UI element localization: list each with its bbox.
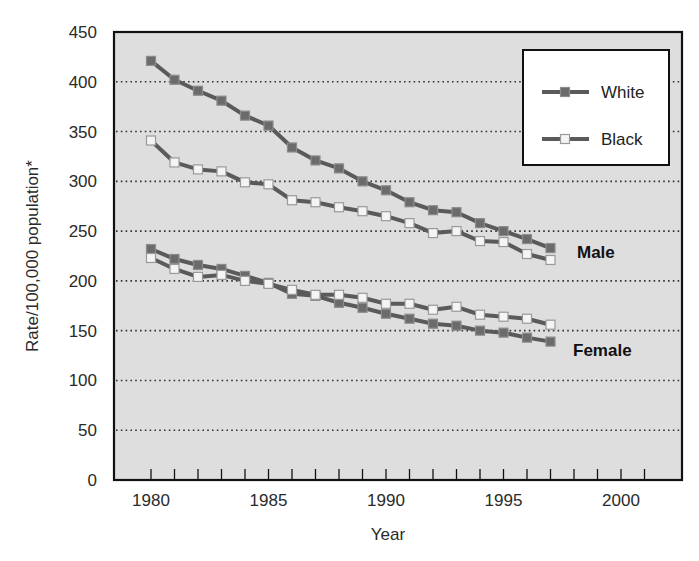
open-square-marker-icon	[499, 312, 508, 321]
legend-box	[523, 50, 669, 165]
y-tick-label: 0	[88, 471, 97, 490]
filled-square-marker-icon	[170, 254, 179, 263]
open-square-marker-icon	[405, 299, 414, 308]
filled-square-marker-icon	[452, 321, 461, 330]
open-square-marker-icon	[241, 178, 250, 187]
filled-square-marker-icon	[358, 303, 367, 312]
open-square-marker-icon	[499, 238, 508, 247]
open-square-marker-icon	[217, 167, 226, 176]
open-square-marker-icon	[382, 299, 391, 308]
y-tick-label: 450	[69, 23, 97, 42]
y-tick-label: 400	[69, 73, 97, 92]
open-square-marker-icon	[170, 158, 179, 167]
open-square-marker-icon	[358, 207, 367, 216]
filled-square-marker-icon	[311, 156, 320, 165]
open-square-marker-icon	[288, 196, 297, 205]
y-tick-label: 50	[78, 421, 97, 440]
filled-square-marker-icon	[429, 319, 438, 328]
open-square-marker-icon	[217, 270, 226, 279]
filled-square-marker-icon	[405, 198, 414, 207]
filled-square-marker-icon	[147, 56, 156, 65]
filled-square-marker-icon	[382, 186, 391, 195]
y-tick-label: 350	[69, 123, 97, 142]
y-axis-tick-labels: 050100150200250300350400450	[69, 23, 97, 490]
y-axis-title: Rate/100,000 population*	[23, 160, 42, 352]
open-square-marker-icon	[147, 253, 156, 262]
filled-square-marker-icon	[405, 314, 414, 323]
filled-square-marker-icon	[147, 245, 156, 254]
filled-square-marker-icon	[546, 337, 555, 346]
x-tick-label: 2000	[602, 491, 640, 510]
x-tick-label: 1990	[367, 491, 405, 510]
filled-square-marker-icon	[499, 227, 508, 236]
open-square-marker-icon	[311, 198, 320, 207]
x-tick-label: 1980	[132, 491, 170, 510]
open-square-marker-icon	[264, 180, 273, 189]
open-square-marker-icon	[335, 203, 344, 212]
x-tick-label: 1995	[485, 491, 523, 510]
open-square-marker-icon	[429, 229, 438, 238]
chart-canvas: 050100150200250300350400450 198019851990…	[0, 0, 699, 561]
open-square-marker-icon	[476, 310, 485, 319]
filled-square-marker-icon	[499, 328, 508, 337]
filled-square-marker-icon	[241, 111, 250, 120]
filled-square-marker-icon	[194, 260, 203, 269]
open-square-marker-icon	[452, 227, 461, 236]
open-square-marker-icon	[523, 250, 532, 259]
filled-square-marker-icon	[523, 235, 532, 244]
open-square-marker-icon	[476, 237, 485, 246]
filled-square-marker-icon	[546, 244, 555, 253]
open-square-marker-icon	[546, 255, 555, 264]
filled-square-marker-icon	[452, 208, 461, 217]
annotation-female: Female	[573, 341, 632, 360]
open-square-marker-icon	[523, 314, 532, 323]
x-axis-title: Year	[371, 525, 406, 544]
open-square-marker-icon	[311, 290, 320, 299]
open-square-marker-icon	[405, 219, 414, 228]
filled-square-marker-icon	[288, 143, 297, 152]
filled-square-marker-icon	[194, 86, 203, 95]
filled-square-marker-icon	[217, 96, 226, 105]
filled-square-marker-icon	[523, 333, 532, 342]
open-square-marker-icon	[241, 276, 250, 285]
open-square-marker-icon	[335, 290, 344, 299]
y-tick-label: 250	[69, 222, 97, 241]
filled-square-marker-icon	[429, 206, 438, 215]
filled-square-marker-icon	[335, 164, 344, 173]
annotation-male: Male	[577, 243, 615, 262]
legend: WhiteBlack	[523, 50, 669, 165]
x-tick-label: 1985	[250, 491, 288, 510]
open-square-marker-icon	[358, 293, 367, 302]
open-square-marker-icon	[170, 264, 179, 273]
open-square-marker-icon	[452, 302, 461, 311]
filled-square-marker-icon	[358, 177, 367, 186]
y-tick-label: 150	[69, 322, 97, 341]
legend-label: White	[601, 83, 644, 102]
filled-square-marker-icon	[170, 75, 179, 84]
y-tick-label: 100	[69, 371, 97, 390]
open-square-marker-icon	[546, 320, 555, 329]
filled-square-marker-icon	[561, 88, 570, 97]
open-square-marker-icon	[288, 285, 297, 294]
open-square-marker-icon	[561, 135, 570, 144]
y-tick-label: 300	[69, 172, 97, 191]
line-chart: 050100150200250300350400450 198019851990…	[0, 0, 699, 561]
open-square-marker-icon	[382, 212, 391, 221]
open-square-marker-icon	[194, 165, 203, 174]
filled-square-marker-icon	[382, 309, 391, 318]
legend-label: Black	[601, 130, 643, 149]
open-square-marker-icon	[147, 136, 156, 145]
y-tick-label: 200	[69, 272, 97, 291]
open-square-marker-icon	[264, 279, 273, 288]
open-square-marker-icon	[194, 272, 203, 281]
filled-square-marker-icon	[476, 219, 485, 228]
open-square-marker-icon	[429, 305, 438, 314]
filled-square-marker-icon	[264, 121, 273, 130]
filled-square-marker-icon	[476, 326, 485, 335]
